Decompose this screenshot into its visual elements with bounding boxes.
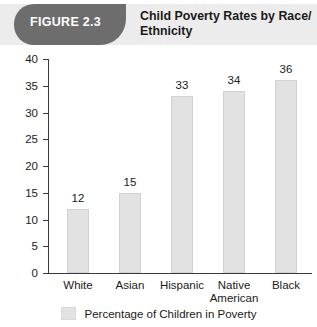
y-axis-tick-label: 40 (14, 54, 38, 66)
bar-value-label: 36 (266, 64, 306, 76)
y-axis-tick-label: 20 (14, 161, 38, 173)
y-axis-tick (43, 59, 48, 60)
x-axis-line (48, 273, 312, 274)
bar (275, 80, 297, 273)
y-axis-tick (43, 220, 48, 221)
chart-plot-area: 0510152025303540 1215333436 WhiteAsianHi… (0, 45, 317, 327)
bar (171, 96, 193, 273)
figure-number-banner: FIGURE 2.3 (14, 4, 126, 45)
y-axis-tick-label: 15 (14, 188, 38, 200)
y-axis-tick-label: 30 (14, 108, 38, 120)
y-axis-tick (43, 246, 48, 247)
y-axis-tick (43, 139, 48, 140)
bar (119, 193, 141, 273)
bar-value-label: 12 (58, 193, 98, 205)
bar-value-label: 33 (162, 80, 202, 92)
x-axis-category-label: Black (251, 279, 317, 292)
bar (223, 91, 245, 273)
y-axis-tick-label: 5 (14, 241, 38, 253)
bar-value-label: 34 (214, 75, 254, 87)
y-axis-tick-label: 0 (14, 268, 38, 280)
y-axis-tick (43, 86, 48, 87)
y-axis-tick (43, 273, 48, 274)
y-axis-line (48, 59, 49, 274)
figure-title: Child Poverty Rates by Race/ Ethnicity (140, 9, 312, 39)
y-axis-tick-label: 10 (14, 215, 38, 227)
legend-label: Percentage of Children in Poverty (85, 308, 257, 320)
y-axis-tick (43, 166, 48, 167)
figure-number-label: FIGURE 2.3 (30, 15, 101, 29)
y-axis-tick (43, 193, 48, 194)
bar-value-label: 15 (110, 177, 150, 189)
figure-header: FIGURE 2.3 Child Poverty Rates by Race/ … (0, 4, 317, 45)
y-axis-tick-label: 25 (14, 134, 38, 146)
legend-swatch-icon (61, 307, 76, 320)
chart-legend: Percentage of Children in Poverty (0, 307, 317, 320)
bar (67, 209, 89, 273)
y-axis-tick-label: 35 (14, 81, 38, 93)
y-axis-tick (43, 113, 48, 114)
